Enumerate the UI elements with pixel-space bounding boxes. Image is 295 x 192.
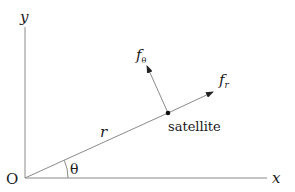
radial-force-arrow [168, 92, 213, 113]
theta-label: θ [70, 161, 78, 177]
tangential-force-arrow [147, 66, 168, 113]
satellite-diagram: y x O r θ satellite fr fθ [0, 0, 295, 192]
theta-arc [64, 160, 68, 178]
radius-line [25, 113, 168, 178]
origin-label: O [6, 170, 18, 188]
radius-label: r [100, 123, 108, 141]
satellite-point [166, 111, 171, 116]
satellite-label: satellite [168, 119, 221, 134]
radial-force-sub: r [225, 80, 230, 90]
tangential-force-sub: θ [142, 56, 147, 65]
tangential-force-label: fθ [135, 46, 147, 65]
radial-force-label: fr [218, 71, 230, 90]
y-axis-label: y [19, 8, 29, 26]
x-axis-label: x [272, 169, 281, 187]
